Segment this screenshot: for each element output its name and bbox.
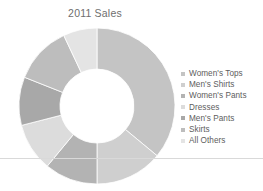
legend-swatch-icon [181,72,185,76]
donut-slice[interactable] [97,28,175,156]
horizontal-divider [0,158,263,159]
legend-item[interactable]: All Others [181,135,263,146]
legend-item-label: Men's Shirts [189,79,234,90]
legend-item[interactable]: Women's Tops [181,68,263,79]
legend-item[interactable]: Men's Shirts [181,79,263,90]
legend-item[interactable]: Dresses [181,102,263,113]
legend-item-label: Men's Pants [189,113,234,124]
legend-item-label: Dresses [189,102,219,113]
legend-swatch-icon [181,116,185,120]
legend-swatch-icon [181,105,185,109]
legend-item[interactable]: Women's Pants [181,90,263,101]
legend-swatch-icon [181,94,185,98]
legend-swatch-icon [181,128,185,132]
legend-swatch-icon [181,139,185,143]
legend-item-label: Skirts [189,124,210,135]
sales-donut-chart: 2011 Sales Women's TopsMen's ShirtsWomen… [0,0,263,191]
legend-item-label: Women's Pants [189,90,247,101]
legend-item[interactable]: Men's Pants [181,113,263,124]
donut-slice-group [19,28,175,184]
legend-item-label: Women's Tops [189,68,243,79]
legend-swatch-icon [181,83,185,87]
chart-legend: Women's TopsMen's ShirtsWomen's PantsDre… [181,68,263,146]
legend-item[interactable]: Skirts [181,124,263,135]
legend-item-label: All Others [189,135,225,146]
